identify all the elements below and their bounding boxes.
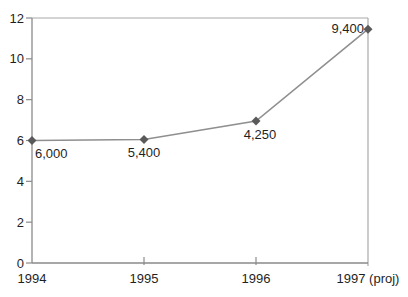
- y-tick-label: 12: [10, 11, 24, 26]
- data-point-label: 5,400: [128, 145, 161, 160]
- series-line: [32, 29, 368, 140]
- y-tick-label: 0: [17, 256, 24, 271]
- x-tick-label: 1997 (proj): [337, 271, 400, 286]
- data-point-label: 4,250: [244, 127, 277, 142]
- data-point-marker: [140, 135, 149, 144]
- y-tick-label: 10: [10, 51, 24, 66]
- line-chart-figure: 0246810121994199519961997 (proj)6,0005,4…: [0, 0, 408, 297]
- line-chart: 0246810121994199519961997 (proj)6,0005,4…: [0, 0, 408, 297]
- x-tick-label: 1995: [130, 271, 159, 286]
- y-tick-label: 6: [17, 133, 24, 148]
- y-tick-label: 8: [17, 92, 24, 107]
- x-tick-label: 1994: [18, 271, 47, 286]
- y-tick-label: 4: [17, 174, 24, 189]
- y-tick-label: 2: [17, 215, 24, 230]
- data-point-label: 9,400: [331, 21, 364, 36]
- data-point-label: 6,000: [35, 146, 68, 161]
- x-tick-label: 1996: [242, 271, 271, 286]
- data-point-marker: [28, 136, 37, 145]
